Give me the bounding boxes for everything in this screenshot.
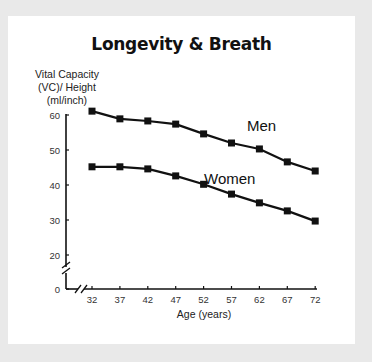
y-tick-label: 30: [49, 215, 60, 226]
data-point-marker: [89, 108, 96, 115]
y-tick-label: 20: [49, 250, 60, 261]
data-point-marker: [256, 145, 263, 152]
x-tick-label: 47: [170, 294, 181, 305]
data-point-marker: [228, 140, 235, 147]
x-tick-label: 62: [254, 294, 265, 305]
series-group: MenWomen: [89, 108, 319, 225]
axes: 02030405060323742475257626772: [49, 110, 320, 306]
x-tick-label: 37: [115, 294, 126, 305]
data-point-marker: [228, 191, 235, 198]
data-point-marker: [89, 163, 96, 170]
data-point-marker: [144, 165, 151, 172]
x-tick-label: 72: [310, 294, 321, 305]
data-point-marker: [200, 130, 207, 137]
x-axis-label: Age (years): [177, 308, 231, 320]
data-point-marker: [312, 168, 319, 175]
x-tick-label: 57: [226, 294, 237, 305]
x-tick-label: 52: [198, 294, 209, 305]
series-label-men: Men: [247, 117, 276, 134]
data-point-marker: [172, 121, 179, 128]
x-tick-label: 42: [143, 294, 154, 305]
series-line: [92, 111, 315, 171]
plot-area: 02030405060323742475257626772 MenWomen A…: [0, 0, 372, 362]
series-women: Women: [89, 163, 319, 224]
y-tick-label: 40: [49, 180, 60, 191]
y-tick-label: 0: [55, 284, 60, 295]
x-tick-label: 32: [87, 294, 98, 305]
x-tick-label: 67: [282, 294, 293, 305]
data-point-marker: [116, 163, 123, 170]
data-point-marker: [284, 158, 291, 165]
data-point-marker: [284, 207, 291, 214]
data-point-marker: [172, 172, 179, 179]
series-label-women: Women: [204, 170, 255, 187]
data-point-marker: [312, 218, 319, 225]
data-point-marker: [144, 117, 151, 124]
data-point-marker: [256, 199, 263, 206]
y-tick-label: 60: [49, 110, 60, 121]
data-point-marker: [116, 115, 123, 122]
y-tick-label: 50: [49, 145, 60, 156]
